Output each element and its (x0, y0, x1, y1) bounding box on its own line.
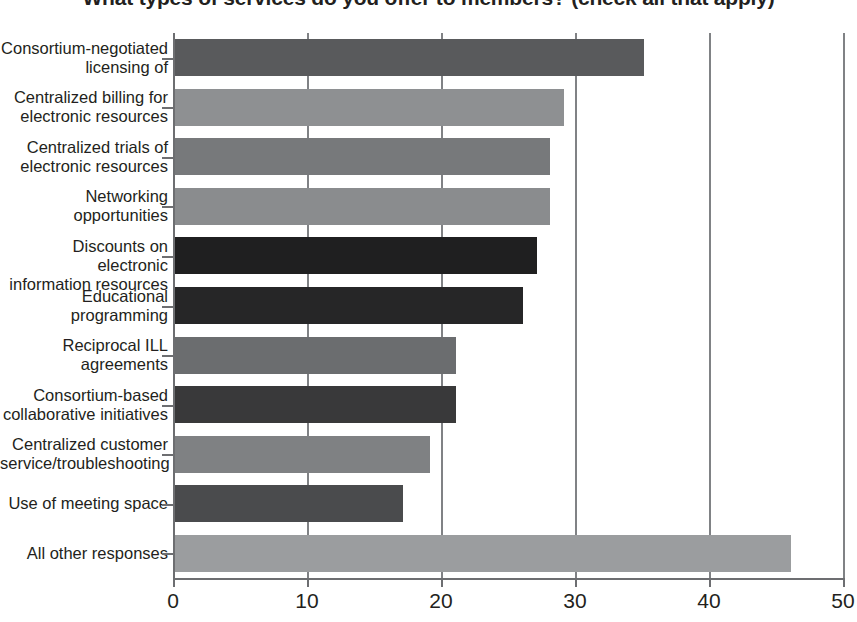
bar (175, 287, 523, 324)
bar (175, 89, 564, 126)
category-label: Discounts on electronicinformation resou… (0, 237, 168, 294)
x-tick-10 (307, 578, 309, 587)
bar (175, 237, 537, 274)
chart-title: What types of services do you offer to m… (0, 0, 857, 10)
bar (175, 138, 550, 175)
category-label-line: service/troubleshooting (0, 454, 168, 473)
category-label-line: electronic resources (0, 107, 168, 126)
bar (175, 386, 456, 423)
category-label: Consortium-negotiatedlicensing of (0, 39, 168, 77)
x-tick-label-50: 50 (831, 589, 854, 613)
category-label: All other responses (0, 544, 168, 563)
y-tick (162, 405, 173, 407)
x-tick-label-20: 20 (429, 589, 452, 613)
category-label-line: Discounts on electronic (0, 237, 168, 275)
y-tick (162, 58, 173, 60)
x-tick-40 (709, 578, 711, 587)
category-label: Centralized billing forelectronic resour… (0, 88, 168, 126)
bar (175, 485, 403, 522)
category-label-line: opportunities (0, 206, 168, 225)
category-label-line: Reciprocal ILL (0, 336, 168, 355)
category-label-line: Consortium-negotiated (0, 39, 168, 58)
category-label: Networkingopportunities (0, 187, 168, 225)
bar (175, 436, 430, 473)
category-label: Centralized customerservice/troubleshoot… (0, 435, 168, 473)
y-tick (162, 306, 173, 308)
category-label-line: programming (0, 306, 168, 325)
x-tick-label-40: 40 (697, 589, 720, 613)
x-tick-50 (843, 578, 845, 587)
category-label-line: Educational (0, 287, 168, 306)
category-label: Reciprocal ILLagreements (0, 336, 168, 374)
chart-screenshot: What types of services do you offer to m… (0, 0, 857, 622)
category-label-line: licensing of (0, 58, 168, 77)
x-tick-label-10: 10 (295, 589, 318, 613)
bar (175, 188, 550, 225)
x-tick-label-30: 30 (563, 589, 586, 613)
x-tick-0 (173, 578, 175, 587)
x-tick-20 (441, 578, 443, 587)
category-label-line: Consortium-based (0, 386, 168, 405)
category-label: Educationalprogramming (0, 287, 168, 325)
category-label-line: All other responses (0, 544, 168, 563)
y-tick (162, 157, 173, 159)
category-label-line: Centralized billing for (0, 88, 168, 107)
y-tick (162, 107, 173, 109)
gridline-30 (575, 33, 577, 578)
bar (175, 39, 644, 76)
y-tick (162, 256, 173, 258)
y-tick (162, 504, 173, 506)
gridline-40 (709, 33, 711, 578)
y-tick (162, 355, 173, 357)
category-label-line: collaborative initiatives (0, 405, 168, 424)
category-label: Centralized trials ofelectronic resource… (0, 138, 168, 176)
y-tick (162, 553, 173, 555)
category-label: Use of meeting space (0, 494, 168, 513)
category-axis-labels: Consortium-negotiatedlicensing ofCentral… (0, 33, 168, 578)
category-label-line: electronic resources (0, 157, 168, 176)
gridline-50 (843, 33, 845, 578)
category-label-line: Centralized customer (0, 435, 168, 454)
category-label-line: agreements (0, 355, 168, 374)
x-tick-label-0: 0 (167, 589, 179, 613)
plot-area: 01020304050 (173, 33, 843, 578)
category-label-line: Use of meeting space (0, 494, 168, 513)
y-tick (162, 206, 173, 208)
bar (175, 337, 456, 374)
x-tick-30 (575, 578, 577, 587)
y-tick (162, 454, 173, 456)
bar (175, 535, 791, 572)
category-label-line: Centralized trials of (0, 138, 168, 157)
category-label-line: Networking (0, 187, 168, 206)
category-label: Consortium-basedcollaborative initiative… (0, 386, 168, 424)
x-axis-line (173, 578, 844, 580)
